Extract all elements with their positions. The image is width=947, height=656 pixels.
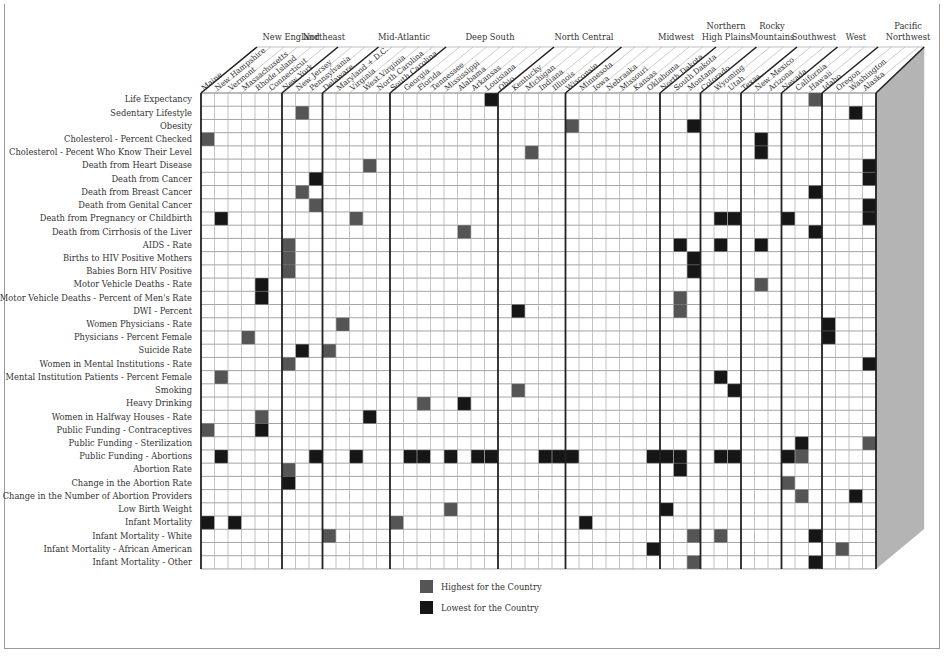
region-label: Southwest [792,32,837,42]
legend-label: Lowest for the Country [441,603,539,613]
highest-cell [512,384,526,397]
highest-cell [809,93,823,106]
lowest-cell [714,238,728,251]
row-label: Mental Institution Patients - Percent Fe… [6,372,193,382]
row-label: Sedentary Lifestyle [110,108,192,118]
lowest-cell [444,450,458,463]
lowest-cell [350,450,364,463]
highest-cell [795,490,809,503]
highest-cell [390,516,404,529]
row-label: Suicide Rate [139,345,193,355]
highest-cell [458,225,472,238]
row-label: Change in the Number of Abortion Provide… [3,491,192,501]
region-label: Pacific [894,21,922,31]
lowest-cell [552,450,566,463]
lowest-cell [282,476,296,489]
highest-cell [444,503,458,516]
depth-side-panel [876,47,924,569]
lowest-cell [863,159,877,172]
highest-cell [566,119,580,132]
lowest-cell [296,344,310,357]
highest-cell [795,450,809,463]
highest-cell [296,106,310,119]
highest-cell [323,529,337,542]
highest-cell [350,212,364,225]
lowest-cell [782,450,796,463]
lowest-cell [228,516,242,529]
highest-cell [282,238,296,251]
highest-cell [714,529,728,542]
region-label: North Central [554,32,613,42]
lowest-cell [201,516,215,529]
lowest-cell [417,450,431,463]
region-label: West [846,32,867,42]
region-label: Mid-Atlantic [378,32,430,42]
row-label: Cholesterol - Percent Checked [64,134,193,144]
legend-label: Highest for the Country [441,582,542,592]
lowest-cell [579,516,593,529]
row-label: Death from Pregnancy or Childbirth [40,213,193,223]
lowest-cell [795,437,809,450]
lowest-cell [539,450,553,463]
row-label: Death from Cancer [111,174,192,184]
lowest-cell [714,371,728,384]
lowest-cell [849,490,863,503]
highest-cell [687,529,701,542]
lowest-cell [512,305,526,318]
row-label: Women in Halfway Houses - Rate [52,412,192,422]
region-label: Rocky [759,21,785,31]
lowest-cell [255,278,269,291]
lowest-cell [363,410,377,423]
lowest-cell [755,133,769,146]
row-label: Motor Vehicle Deaths - Percent of Men's … [0,293,192,303]
highest-cell [363,159,377,172]
highest-cell [836,542,850,555]
highest-cell [282,357,296,370]
legend-swatch-highest [420,580,433,593]
row-label: Public Funding - Sterilization [69,438,193,448]
region-label: Northeast [303,32,346,42]
lowest-cell [809,225,823,238]
lowest-cell [471,450,485,463]
lowest-cell [674,463,688,476]
highest-cell [282,265,296,278]
lowest-cell [687,265,701,278]
row-label: DWI - Percent [133,306,193,316]
lowest-cell [255,424,269,437]
row-label: Abortion Rate [132,464,192,474]
row-label: Motor Vehicle Deaths - Rate [73,279,192,289]
lowest-cell [714,450,728,463]
row-label: Death from Cirrhosis of the Liver [52,227,192,237]
lowest-cell [255,291,269,304]
lowest-cell [458,397,472,410]
row-label: Infant Mortality - White [92,531,192,541]
highest-cell [323,344,337,357]
lowest-cell [728,212,742,225]
highest-cell [242,331,256,344]
lowest-cell [404,450,418,463]
row-label: Life Expectancy [125,94,193,104]
lowest-cell [309,450,323,463]
lowest-cell [782,212,796,225]
highest-cell [309,199,323,212]
lowest-cell [863,357,877,370]
lowest-cell [215,450,229,463]
region-label: Northwest [886,32,931,42]
lowest-cell [674,238,688,251]
highest-cell [201,133,215,146]
highest-cell [336,318,350,331]
highest-cell [417,397,431,410]
row-label: Smoking [155,385,193,395]
row-label: Obesity [160,121,192,131]
row-label: Cholesterol - Pecent Who Know Their Leve… [9,147,192,157]
3d-depth-side [201,47,924,569]
region-label: Northern [706,21,746,31]
lowest-cell [660,503,674,516]
region-label: Mountains [750,32,795,42]
highest-cell [215,371,229,384]
lowest-cell [647,542,661,555]
lowest-cell [822,318,836,331]
lowest-cell [822,331,836,344]
lowest-cell [755,238,769,251]
highest-cell [282,252,296,265]
